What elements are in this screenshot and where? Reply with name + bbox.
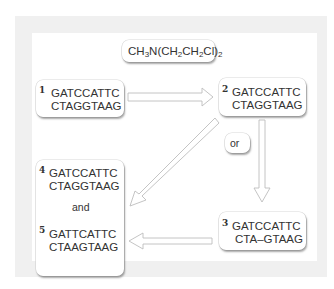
sequence-number: 4 [39,163,45,177]
arrow-2-to-4 [130,118,219,206]
or-label: or [230,136,239,150]
arrow-3-to-5 [129,233,212,249]
sequence-bottom-strand: CTAGGTAAG [49,179,120,193]
or-label-box: or [225,133,250,153]
sequence-number: 3 [222,216,228,230]
sequence-bottom-strand: CTAAGTAAG [49,240,118,254]
sequence-bottom-strand: CTAGGTAAG [51,99,122,113]
sequence-bottom-strand: CTAGGTAAG [232,98,303,112]
sequence-box-2: 2 GATCCATTC CTAGGTAAG [219,78,306,116]
sequence-number: 2 [222,82,228,96]
sequence-top-strand: GATCCATTC [51,86,120,100]
arrow-2-to-3 [254,120,270,202]
sequence-top-strand: GATCCATTC [232,85,301,99]
sequence-number: 5 [39,223,45,237]
sequence-top-strand: GATCCATTC [232,219,301,233]
reagent-box: CH3N(CH2CH2Cl)2 [122,40,215,62]
sequence-top-strand: GATCCATTC [49,166,118,180]
sequence-top-strand: GATTCATTC [49,227,116,241]
and-label: and [72,200,90,214]
sequence-box-3: 3 GATCCATTC CTA–GTAAG [219,212,306,250]
reagent-formula: CH3N(CH2CH2Cl)2 [128,44,223,62]
sequence-bottom-strand: CTA–GTAAG [235,232,303,246]
sequence-box-4-and-5: 4 GATCCATTC CTAGGTAAG and 5 GATTCATTC CT… [36,160,124,276]
arrow-1-to-2 [128,88,213,106]
sequence-box-1: 1 GATCCATTC CTAGGTAAG [36,80,124,117]
sequence-number: 1 [39,83,45,97]
